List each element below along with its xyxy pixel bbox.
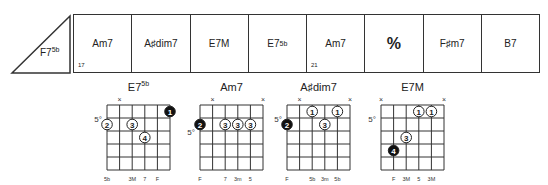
chord-diagram-svg: E7M××5°1134F3M53M [344, 80, 454, 185]
finger-dot: 3 [127, 119, 138, 130]
measure-cell: Am7 17 [74, 15, 132, 72]
measure-cell: F♯m7 [424, 15, 482, 72]
interval-label: 3M [428, 176, 436, 182]
svg-text:3: 3 [404, 134, 409, 143]
finger-dot: 3 [220, 119, 231, 130]
interval-label: F [198, 176, 202, 182]
measure-chord: B7 [504, 38, 516, 49]
interval-label: F [156, 176, 160, 182]
measure-chord: Am7 [92, 38, 113, 49]
svg-text:1: 1 [310, 108, 315, 117]
fret-position-label: 5° [368, 115, 376, 124]
measure-chord-alteration: 5b [280, 40, 288, 47]
finger-dot: 3 [320, 119, 331, 130]
svg-text:2: 2 [285, 121, 290, 130]
measure-cell: E75b [249, 15, 307, 72]
lead-in-chord-alteration: 5b [52, 46, 60, 53]
muted-string-icon: × [442, 96, 446, 103]
interval-label: 7 [143, 176, 146, 182]
interval-label: 5b [309, 176, 315, 182]
muted-string-icon: × [211, 96, 215, 103]
finger-dot: 2 [195, 119, 206, 130]
interval-label: F [285, 176, 289, 182]
chord-diagram-title: A♯dim7 [300, 81, 337, 93]
finger-dot: 2 [102, 119, 113, 130]
svg-text:1: 1 [429, 108, 434, 117]
muted-string-icon: × [298, 96, 302, 103]
interval-label: 7 [224, 176, 227, 182]
chord-diagram-e7m: E7M××5°1134F3M53M [344, 80, 454, 185]
svg-text:2: 2 [198, 121, 203, 130]
svg-text:4: 4 [143, 134, 148, 143]
finger-dot: 2 [282, 119, 293, 130]
repeat-measure-icon: % [387, 35, 401, 53]
finger-dot: 4 [388, 145, 399, 156]
measure-number: 17 [78, 62, 85, 68]
svg-text:3: 3 [130, 121, 135, 130]
measure-chord: Am7 [325, 38, 346, 49]
chord-diagram-title: E7M [401, 81, 424, 93]
interval-label: 5b [334, 176, 340, 182]
lead-in-chord: F75b [40, 46, 59, 58]
measure-cell: A♯dim7 [132, 15, 190, 72]
finger-dot: 3 [233, 119, 244, 130]
lead-in-triangle [0, 0, 75, 78]
finger-dot: 4 [140, 132, 151, 143]
svg-text:4: 4 [391, 147, 396, 156]
fret-position-label: 5° [187, 128, 195, 137]
measure-chord: A♯dim7 [144, 38, 177, 49]
interval-label: 5 [417, 176, 420, 182]
chord-diagram-title: Am7 [220, 81, 243, 93]
finger-dot: 3 [401, 132, 412, 143]
measure-cell: % [365, 15, 423, 72]
svg-text:3: 3 [223, 121, 228, 130]
measure-chord: E7 [267, 38, 279, 49]
measure-cell: B7 [482, 15, 539, 72]
svg-text:1: 1 [417, 108, 422, 117]
muted-string-icon: × [118, 96, 122, 103]
chord-chart-bar: Am7 17 A♯dim7 E7M E75b Am7 21 % F♯m7 B7 [73, 14, 540, 73]
finger-dot: 1 [414, 106, 425, 117]
interval-label: 5b [104, 176, 110, 182]
measure-chord: E7M [209, 38, 230, 49]
measure-chord: F♯m7 [440, 38, 465, 49]
chord-diagram-title: E75b [128, 80, 149, 93]
interval-label: 3M [402, 176, 410, 182]
svg-text:2: 2 [105, 121, 110, 130]
lead-in-chord-name: F7 [40, 47, 52, 58]
svg-text:3: 3 [236, 121, 241, 130]
finger-dot: 1 [307, 106, 318, 117]
muted-string-icon: × [379, 96, 383, 103]
svg-text:3: 3 [323, 121, 328, 130]
svg-text:1: 1 [335, 108, 340, 117]
fret-position-label: 5° [274, 115, 282, 124]
finger-dot: 1 [332, 106, 343, 117]
measure-cell: E7M [191, 15, 249, 72]
interval-label: 3M [128, 176, 136, 182]
interval-label: F [392, 176, 396, 182]
interval-label: 3m [234, 176, 242, 182]
measure-cell: Am7 21 [307, 15, 365, 72]
fret-position-label: 5° [94, 115, 102, 124]
interval-label: 3m [321, 176, 329, 182]
measure-number: 21 [311, 62, 318, 68]
finger-dot: 1 [426, 106, 437, 117]
